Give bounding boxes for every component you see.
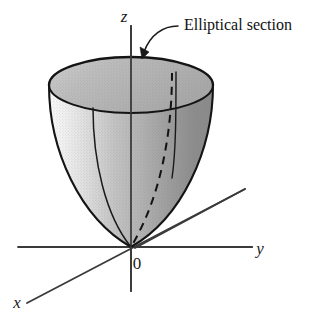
paraboloid-surface [40, 50, 230, 260]
callout-arrow-group [140, 26, 178, 59]
origin-label: 0 [133, 254, 142, 273]
z-axis-label: z [120, 7, 128, 26]
y-axis-label: y [254, 239, 264, 258]
x-axis-label: x [12, 293, 21, 312]
elliptical-section-label: Elliptical section [184, 16, 292, 34]
figure-container: z y x 0 Elliptical section [0, 0, 334, 315]
paraboloid-diagram-svg: z y x 0 Elliptical section [0, 0, 334, 315]
callout-arrow-line [144, 26, 178, 52]
